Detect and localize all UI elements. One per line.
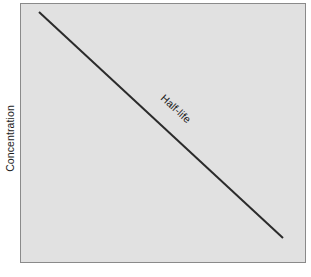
chart-figure: Concentration Half-life (0, 0, 311, 277)
y-axis-label: Concentration (0, 0, 20, 277)
plot-area (20, 3, 306, 263)
